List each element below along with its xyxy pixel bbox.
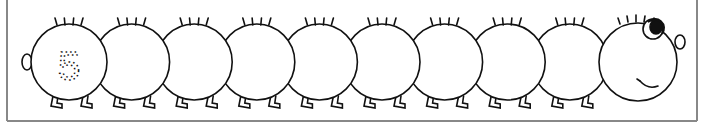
caterpillar-head (599, 15, 685, 101)
number-label: 5 (58, 44, 80, 88)
caterpillar-worksheet: 5 (0, 0, 703, 124)
